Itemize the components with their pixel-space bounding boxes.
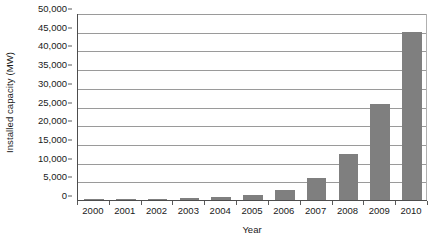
bar-2007[interactable] [307, 178, 327, 200]
x-tick-label-2003: 2003 [178, 205, 199, 217]
y-tick-mark [68, 139, 72, 140]
x-tick-label-2002: 2002 [146, 205, 167, 217]
y-tick-mark [68, 83, 72, 84]
y-tick-label: 35,000 [38, 60, 67, 70]
x-tick-label-2008: 2008 [337, 205, 358, 217]
x-tick-label-2005: 2005 [241, 205, 262, 217]
y-tick-label: 20,000 [38, 116, 67, 126]
bar-2004[interactable] [211, 197, 231, 200]
y-tick-label: 45,000 [38, 23, 67, 33]
y-tick-label: 40,000 [38, 41, 67, 51]
bar-2010[interactable] [402, 32, 422, 200]
bar-2000[interactable] [84, 199, 104, 201]
bar-2002[interactable] [148, 199, 168, 201]
plot-area [77, 14, 427, 201]
x-tick-mark [427, 201, 428, 205]
y-tick-label: 5,000 [43, 172, 67, 182]
y-tick-mark [68, 9, 72, 10]
y-tick-label: 0 [62, 191, 67, 201]
y-tick-mark [68, 177, 72, 178]
bar-2006[interactable] [275, 190, 295, 200]
x-tick-label-2004: 2004 [210, 205, 231, 217]
y-tick-label: 30,000 [38, 79, 67, 89]
x-axis-title: Year [77, 224, 427, 235]
y-tick-mark [68, 46, 72, 47]
y-tick-mark [68, 27, 72, 28]
x-tick-label-2009: 2009 [369, 205, 390, 217]
y-tick-label: 50,000 [38, 4, 67, 14]
bar-chart: Installed capacity (MW) 05,00010,00015,0… [0, 0, 441, 248]
y-axis-title: Installed capacity (MW) [0, 0, 20, 205]
x-tick-label-2000: 2000 [82, 205, 103, 217]
x-tick-label-2006: 2006 [273, 205, 294, 217]
x-axis-tick-labels: 2000200120022003200420052006200720082009… [77, 205, 427, 219]
y-tick-mark [68, 102, 72, 103]
y-tick-mark [68, 196, 72, 197]
y-tick-mark [68, 158, 72, 159]
bar-2001[interactable] [116, 199, 136, 201]
y-axis-tick-labels: 05,00010,00015,00020,00025,00030,00035,0… [18, 9, 72, 201]
bar-2005[interactable] [243, 195, 263, 200]
y-tick-label: 10,000 [38, 154, 67, 164]
x-tick-label-2007: 2007 [305, 205, 326, 217]
y-axis-title-label: Installed capacity (MW) [5, 52, 16, 153]
x-tick-label-2010: 2010 [401, 205, 422, 217]
y-tick-mark [68, 65, 72, 66]
y-tick-label: 15,000 [38, 135, 67, 145]
bar-2003[interactable] [180, 198, 200, 200]
bars-layer [78, 14, 427, 200]
bar-2008[interactable] [339, 154, 359, 200]
x-tick-label-2001: 2001 [114, 205, 135, 217]
bar-2009[interactable] [370, 104, 390, 200]
y-tick-mark [68, 121, 72, 122]
y-tick-label: 25,000 [38, 98, 67, 108]
